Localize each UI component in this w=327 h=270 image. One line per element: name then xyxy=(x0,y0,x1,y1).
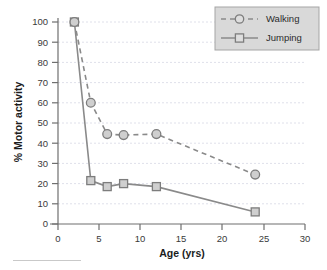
motor-activity-chart: 100 90 80 70 60 50 40 30 20 10 0 0 5 10 xyxy=(0,0,327,270)
legend-label-walking: Walking xyxy=(266,13,299,24)
y-tick-label: 40 xyxy=(37,138,48,149)
x-axis-ticks xyxy=(58,224,305,230)
legend-jumping-square-marker xyxy=(235,34,243,42)
x-tick-label: 0 xyxy=(55,233,60,244)
y-tick-label: 10 xyxy=(37,198,48,209)
y-tick-label: 50 xyxy=(37,117,48,128)
x-tick-labels: 0 5 10 15 20 25 30 xyxy=(55,233,310,244)
chart-legend[interactable]: Walking Jumping xyxy=(215,7,319,50)
y-tick-label: 70 xyxy=(37,77,48,88)
x-axis-title: Age (yrs) xyxy=(159,247,205,259)
x-tick-label: 10 xyxy=(135,233,146,244)
y-tick-label: 90 xyxy=(37,37,48,48)
x-tick-label: 25 xyxy=(259,233,270,244)
y-tick-label: 80 xyxy=(37,57,48,68)
x-tick-label: 30 xyxy=(300,233,311,244)
bottom-divider-rule xyxy=(13,260,81,261)
y-tick-label: 20 xyxy=(37,178,48,189)
legend-walking-circle-marker xyxy=(235,15,243,23)
y-tick-label: 100 xyxy=(32,16,48,27)
y-axis-ticks xyxy=(52,22,58,224)
y-tick-label: 0 xyxy=(43,218,48,229)
x-tick-label: 20 xyxy=(217,233,228,244)
chart-canvas: 100 90 80 70 60 50 40 30 20 10 0 0 5 10 xyxy=(0,0,327,270)
y-tick-label: 30 xyxy=(37,158,48,169)
x-tick-label: 15 xyxy=(176,233,187,244)
y-tick-labels: 100 90 80 70 60 50 40 30 20 10 0 xyxy=(32,16,48,229)
legend-label-jumping: Jumping xyxy=(266,32,302,43)
x-tick-label: 5 xyxy=(96,233,101,244)
y-axis-title: % Motor activity xyxy=(12,82,24,163)
y-tick-label: 60 xyxy=(37,97,48,108)
